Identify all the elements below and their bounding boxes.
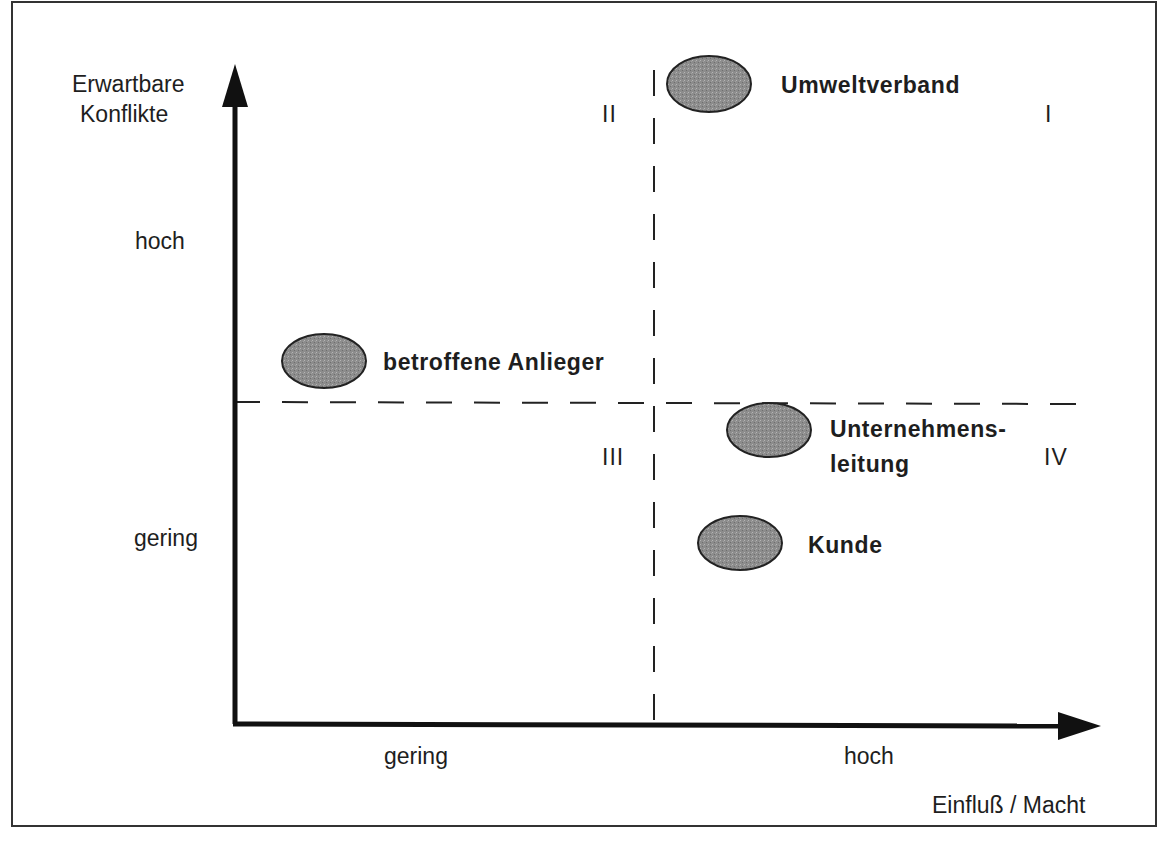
quadrant-label-i: I [1045,101,1052,127]
stakeholder-ellipse-anlieger [282,334,366,388]
stakeholder-label-umweltverband: Umweltverband [781,72,960,98]
quadrant-label-iv: IV [1044,444,1068,470]
stakeholder-label-kunde: Kunde [808,532,883,558]
y-axis-arrow [222,64,248,724]
stakeholder-label-unternehmensleitung-line2: leitung [830,451,910,477]
stakeholder-ellipse-kunde [698,516,782,570]
y-axis-title-line2: Konflikte [80,101,168,127]
stakeholder-ellipse-unternehmensleitung [727,403,811,457]
quadrant-label-ii: II [602,101,617,127]
y-tick-low: gering [134,525,198,551]
stakeholder-label-anlieger: betroffene Anlieger [383,349,604,375]
stakeholder-label-unternehmensleitung-line1: Unternehmens- [830,416,1007,442]
x-tick-high: hoch [844,743,894,769]
y-tick-high: hoch [135,228,185,254]
stakeholder-ellipse-umweltverband [667,56,751,112]
y-axis-title-line1: Erwartbare [72,71,184,97]
quadrant-label-iii: III [602,444,624,470]
horizontal-divider [234,402,1080,404]
x-tick-low: gering [384,743,448,769]
x-axis-title: Einfluß / Macht [932,792,1085,818]
x-axis-arrow [233,712,1101,740]
